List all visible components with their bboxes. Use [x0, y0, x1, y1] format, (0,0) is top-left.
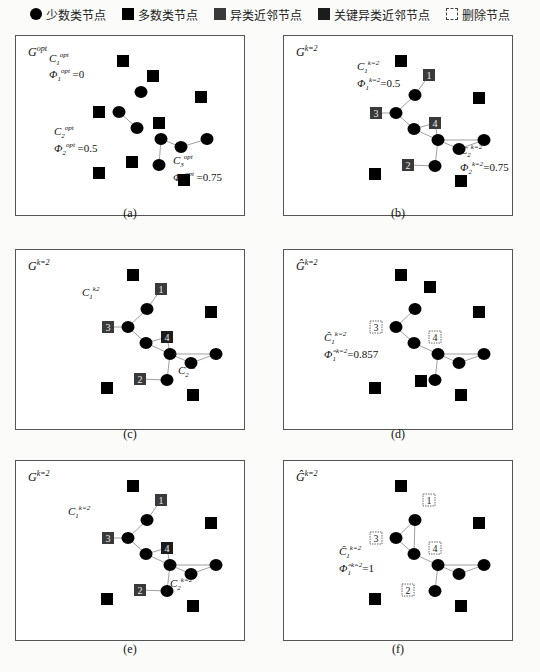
neighbor-index: 3 [106, 533, 111, 544]
neighbor-index: 1 [159, 495, 164, 506]
minority-node-icon [429, 374, 442, 386]
label-sup: opt [66, 141, 75, 149]
minority-node-icon [408, 548, 421, 560]
neighbor-index: 3 [106, 322, 111, 333]
majority-node-icon [127, 480, 139, 492]
score-label: Φ̂1k=2=0.857 [324, 348, 378, 363]
minority-node-icon [155, 133, 168, 145]
caption-b: (b) [283, 206, 513, 221]
graph-symbol: G [28, 259, 37, 273]
majority-node-icon [395, 480, 407, 492]
label-sup: opt [61, 67, 70, 75]
minority-node-icon [390, 532, 403, 544]
neighbor-index: 4 [165, 543, 170, 554]
minority-node-icon [113, 106, 126, 118]
neighbor-index: 4 [165, 332, 170, 343]
neighbor-index: 4 [433, 118, 438, 129]
graph-superscript: k=2 [305, 44, 318, 53]
label-sup: opt [184, 153, 193, 161]
cluster-label: C2k2 [178, 364, 195, 379]
label-sub: 1 [365, 84, 369, 92]
label-sup: opt [65, 124, 74, 132]
neighbor-index: 1 [159, 284, 164, 295]
legend-label: 异类近邻节点 [230, 6, 302, 23]
neighbor-index: 4 [433, 543, 438, 554]
cluster-label: Ĉ1k=2 [324, 331, 346, 346]
majority-node-icon [473, 92, 485, 104]
minority-node-icon [30, 8, 42, 20]
label-sub: 3 [181, 178, 185, 186]
panel-a: GoptC1optΦ1opt =0C2optΦ2opt =0.5C3optΦ3o… [15, 35, 245, 216]
minority-node-icon [140, 548, 153, 560]
score-label: Φ̂1k=2=1 [339, 562, 374, 577]
score-label: Φ3opt =0.75 [173, 171, 222, 186]
minority-node-icon [141, 514, 154, 526]
neighbor-index: 2 [406, 585, 411, 596]
legend: 少数类节点 多数类节点 异类近邻节点 关键异类近邻节点 删除节点 [0, 4, 540, 24]
cluster-label: C1k=2 [68, 505, 90, 520]
graph-symbol: Ĝ [296, 470, 305, 484]
minority-node-icon [429, 585, 442, 597]
label-sub: 2 [61, 132, 65, 140]
neighbor-index: 2 [138, 585, 143, 596]
graph-symbol: G [28, 45, 37, 59]
graph-canvas: 1234 [16, 461, 246, 642]
label-val: =0 [70, 68, 84, 80]
cluster-label: C2k=2 [460, 144, 482, 159]
minority-node-icon [409, 303, 422, 315]
minority-node-icon [478, 559, 491, 571]
majority-node-icon [205, 306, 217, 318]
label-sup: k=2 [335, 330, 346, 338]
label-val: =0.5 [75, 142, 98, 154]
label-sub: 1 [56, 59, 60, 67]
caption-e: (e) [15, 642, 245, 657]
label-sup: opt [60, 51, 69, 59]
majority-node-icon [122, 8, 134, 20]
panel-f: 1234Ĝk=2Ĉ1k=2Φ̂1k=2=1 [283, 460, 513, 641]
label-val: =0.75 [483, 161, 508, 173]
majority-node-icon [369, 168, 381, 180]
heterophilous-neighbor-icon [214, 8, 226, 20]
minority-node-icon [122, 532, 135, 544]
neighbor-index: 3 [374, 108, 379, 119]
minority-node-icon [478, 348, 491, 360]
panel-b: 1234Gk=2C1k=2Φ1k=2=0.5C2k=2Φ2k=2=0.75 [283, 35, 513, 216]
minority-node-icon [432, 559, 445, 571]
label-sup: k=2 [471, 143, 482, 151]
label-sub: 1 [332, 355, 336, 363]
graph-superscript: k=2 [37, 469, 50, 478]
graph-canvas: 1234 [284, 461, 514, 642]
panel-e: 1234Gk=2C1k=2C2k=2 [15, 460, 245, 641]
majority-node-icon [395, 55, 407, 67]
minority-node-icon [140, 337, 153, 349]
label-sub: 1 [364, 67, 368, 75]
minority-node-icon [141, 303, 154, 315]
label-sup: k=2 [336, 347, 347, 355]
minority-node-icon [175, 141, 188, 153]
majority-node-icon [93, 167, 105, 179]
majority-node-icon [395, 269, 407, 281]
cluster-label: C2opt [54, 125, 74, 140]
minority-node-icon [390, 321, 403, 333]
legend-label: 少数类节点 [46, 6, 106, 23]
graph-label: Gk=2 [296, 44, 318, 60]
legend-item-minority: 少数类节点 [30, 6, 106, 23]
deleted-node-icon [446, 8, 458, 20]
label-val: =1 [362, 562, 374, 574]
key-heterophilous-neighbor-icon [318, 8, 330, 20]
majority-node-icon [415, 375, 427, 387]
graph-label: Ĝk=2 [296, 469, 318, 485]
cluster-label: C1opt [49, 52, 69, 67]
graph-canvas: 34 [284, 250, 514, 431]
label-sub: 1 [347, 569, 351, 577]
label-sup: k=2 [472, 160, 483, 168]
majority-node-icon [187, 600, 199, 612]
majority-node-icon [153, 117, 165, 129]
minority-node-icon [409, 89, 422, 101]
label-sub: 1 [57, 75, 61, 83]
graph-symbol: G [28, 470, 37, 484]
minority-node-icon [210, 559, 223, 571]
graph-label: Gopt [28, 44, 47, 60]
graph-label: Gk=2 [28, 469, 50, 485]
cluster-label: Ĉ1k=2 [339, 545, 361, 560]
